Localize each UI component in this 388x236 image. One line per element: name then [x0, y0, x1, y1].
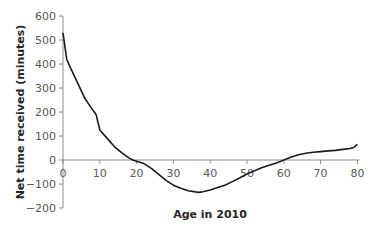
- x-tick-label: 30: [166, 167, 180, 180]
- y-axis-title: Net time received (minutes): [14, 25, 27, 200]
- y-tick-label: 600: [35, 10, 56, 23]
- x-tick-label: 80: [350, 167, 364, 180]
- y-tick-label: 0: [49, 154, 56, 167]
- line-chart: −200−1000100200300400500600 010203040506…: [0, 0, 388, 236]
- x-tick-label: 0: [60, 167, 67, 180]
- y-tick-label: 100: [35, 130, 56, 143]
- x-tick-label: 20: [130, 167, 144, 180]
- y-tick-label: −200: [26, 202, 56, 215]
- x-tick-label: 40: [203, 167, 217, 180]
- y-tick-label: 300: [35, 82, 56, 95]
- y-tick-label: 200: [35, 106, 56, 119]
- x-tick-label: 10: [93, 167, 107, 180]
- y-tick-label: −100: [26, 178, 56, 191]
- x-axis-title: Age in 2010: [173, 208, 247, 221]
- y-axis: −200−1000100200300400500600: [26, 10, 63, 215]
- y-tick-label: 400: [35, 58, 56, 71]
- x-tick-label: 60: [277, 167, 291, 180]
- x-axis: 01020304050607080: [60, 160, 365, 180]
- y-tick-label: 500: [35, 34, 56, 47]
- x-tick-label: 70: [314, 167, 328, 180]
